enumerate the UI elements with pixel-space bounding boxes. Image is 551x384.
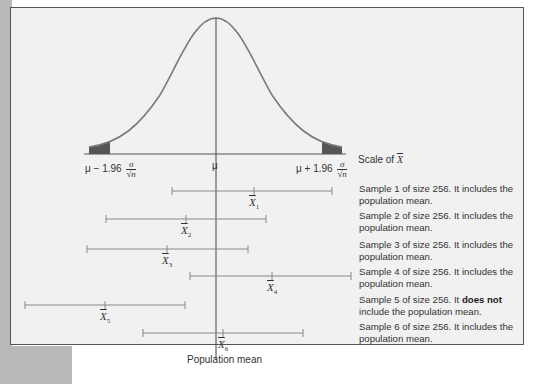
population-mean-label: Population mean [187,354,262,365]
confidence-interval-2 [106,215,266,223]
axis-scale-label: Scale of X [358,154,403,165]
confidence-interval-5 [25,301,185,309]
confidence-interval-1 [172,187,332,195]
confidence-interval-4 [190,272,351,280]
confidence-interval-3 [87,245,248,253]
sample-description-2: Sample 2 of size 256. It includes the po… [359,210,519,234]
sample-mean-label-3: X3 [162,254,172,269]
sample-description-6: Sample 6 of size 256. It includes the po… [359,321,519,345]
upper-bound-label: μ + 1.96 σ √n [296,160,347,179]
sample-mean-label-6: X6 [218,338,228,353]
sample-description-1: Sample 1 of size 256. It includes the po… [359,183,519,207]
lower-bound-label: μ − 1.96 σ √n [85,160,136,179]
sample-mean-label-2: X2 [181,224,191,239]
sample-description-5: Sample 5 of size 256. It does not includ… [359,294,519,318]
confidence-interval-6 [143,329,303,337]
sample-description-3: Sample 3 of size 256. It includes the po… [359,239,519,263]
sample-mean-label-1: X1 [249,196,259,211]
mu-label: μ [212,160,218,171]
sample-mean-label-5: X5 [100,310,110,325]
sample-mean-label-4: X4 [267,281,277,296]
sample-description-4: Sample 4 of size 256. It includes the po… [359,266,519,290]
